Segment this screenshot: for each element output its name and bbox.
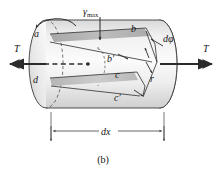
label-point-b-prime: b′: [107, 53, 115, 64]
label-point-c-prime: c′: [114, 92, 121, 103]
label-radius-r: r: [150, 73, 154, 84]
label-dphi: dφ: [163, 33, 174, 44]
axis-endpoint-dot: [86, 62, 90, 66]
label-point-b: b: [131, 23, 136, 34]
torsion-diagram-canvas: γmax T T a d b b′ c c′ dφ r dx (b): [0, 0, 224, 173]
label-dx: dx: [101, 126, 111, 137]
figure-caption: (b): [97, 154, 109, 166]
label-point-a: a: [34, 28, 39, 39]
label-point-c: c: [115, 69, 120, 80]
gamma-subscript: max: [87, 11, 99, 18]
torsion-figure: γmax T T a d b b′ c c′ dφ r dx (b): [0, 0, 224, 173]
